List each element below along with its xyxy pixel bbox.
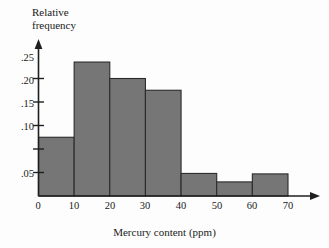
y-axis-arrowhead: [35, 39, 43, 49]
histogram-plot: [0, 0, 329, 248]
bars-group: [39, 62, 289, 196]
histogram-bar: [74, 62, 110, 196]
histogram-bar: [217, 182, 253, 196]
histogram-figure: Relative frequency .05 .10 .15 .20 .25 0…: [0, 0, 329, 248]
x-axis-arrowhead: [310, 192, 320, 200]
histogram-bar: [252, 174, 288, 196]
histogram-bar: [39, 137, 75, 196]
histogram-bar: [110, 79, 146, 197]
histogram-bar: [145, 90, 181, 196]
histogram-bar: [181, 173, 217, 196]
x-axis-title: Mercury content (ppm): [0, 226, 329, 239]
